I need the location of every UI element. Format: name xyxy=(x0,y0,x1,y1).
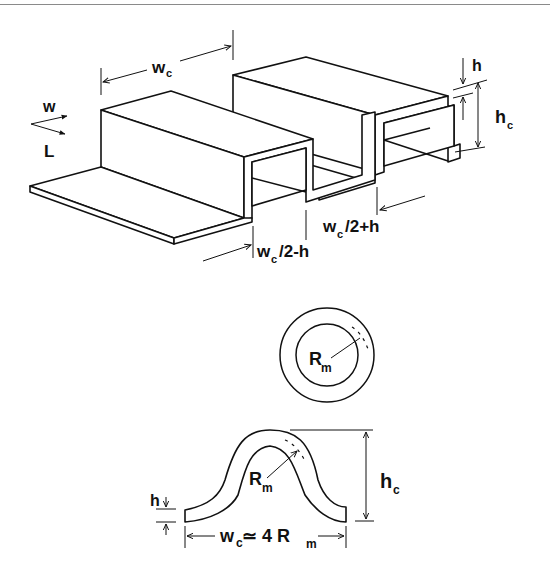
svg-text:w: w xyxy=(322,217,337,236)
arch-profile xyxy=(185,430,346,522)
svg-text:c: c xyxy=(166,67,172,79)
arch-width-label: ≃ 4 R xyxy=(242,526,290,546)
svg-text:m: m xyxy=(262,481,273,495)
axis-w-label: w xyxy=(42,98,56,115)
svg-text:c: c xyxy=(507,119,513,131)
wc-half-minus-h-label: /2-h xyxy=(279,242,309,261)
svg-text:c: c xyxy=(393,483,400,497)
arch-h-label: h xyxy=(150,492,160,509)
hc-label-top: h xyxy=(495,107,506,127)
arch-rm-label: R xyxy=(249,469,262,489)
svg-text:m: m xyxy=(306,537,317,551)
h-label-top: h xyxy=(472,57,482,74)
svg-text:c: c xyxy=(271,253,277,265)
arch-hc-label: h xyxy=(380,470,392,492)
svg-text:w: w xyxy=(219,526,235,546)
svg-text:m: m xyxy=(321,361,332,375)
axis-indicator: w L xyxy=(31,98,67,161)
corrugation-diagram: w c w L h h c w c /2+h w c /2-h xyxy=(0,0,550,570)
axis-L-label: L xyxy=(44,142,54,161)
wc-half-plus-h-label: /2+h xyxy=(345,217,380,236)
arch-cross-section: R m h c h w c ≃ 4 R m xyxy=(150,430,400,551)
wc-top-label: w xyxy=(151,58,166,77)
wc-top-dimension: w c xyxy=(101,30,233,95)
svg-text:w: w xyxy=(256,242,271,261)
h-hc-dimension: h h c xyxy=(453,57,513,152)
ring-cross-section: R m xyxy=(280,308,374,402)
isometric-corrugation xyxy=(30,57,460,244)
svg-text:c: c xyxy=(337,228,343,240)
